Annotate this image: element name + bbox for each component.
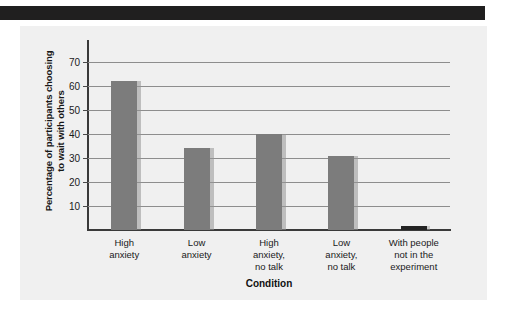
y-axis-title-line-1: Percentage of participants choosing bbox=[43, 51, 54, 212]
plot-area: 10203040506070 HighanxietyLowanxietyHigh… bbox=[88, 50, 450, 230]
y-axis-title-line-2: to wait with others bbox=[55, 90, 66, 172]
bar[interactable] bbox=[256, 134, 282, 230]
x-axis-title: Condition bbox=[88, 278, 450, 289]
bar[interactable] bbox=[328, 156, 354, 230]
bar-chart: Percentage of participants choosing to w… bbox=[20, 26, 487, 300]
y-axis-tick-label: 60 bbox=[69, 81, 80, 92]
x-axis-tick-label: With peoplenot in theexperiment bbox=[371, 237, 457, 273]
bar[interactable] bbox=[111, 81, 137, 230]
y-axis-tick-label: 50 bbox=[69, 105, 80, 116]
bar-slot: Lowanxiety bbox=[160, 50, 232, 230]
y-axis-title: Percentage of participants choosing to w… bbox=[38, 36, 72, 226]
bar-slot: Highanxiety bbox=[88, 50, 160, 230]
y-axis-tick-label: 20 bbox=[69, 177, 80, 188]
y-axis-tick-label: 70 bbox=[69, 57, 80, 68]
y-axis-tick-label: 40 bbox=[69, 129, 80, 140]
header-decoration-band bbox=[0, 6, 485, 20]
bar-slot: Lowanxiety,no talk bbox=[305, 50, 377, 230]
bar[interactable] bbox=[184, 148, 210, 230]
y-axis-tick-label: 30 bbox=[69, 153, 80, 164]
page-root: Percentage of participants choosing to w… bbox=[0, 0, 511, 315]
bar-slot: With peoplenot in theexperiment bbox=[378, 50, 450, 230]
bar[interactable] bbox=[401, 226, 427, 230]
y-axis-tick-label: 10 bbox=[69, 201, 80, 212]
figure-panel: Percentage of participants choosing to w… bbox=[20, 26, 487, 300]
bar-slot: Highanxiety,no talk bbox=[233, 50, 305, 230]
